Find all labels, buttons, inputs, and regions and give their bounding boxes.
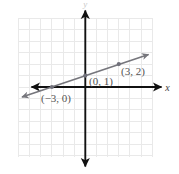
coordinate-plane-figure: (−3, 0) (0, 1) (3, 2) x y — [0, 0, 179, 174]
x-axis-label: x — [164, 82, 170, 93]
point-y-intercept — [83, 74, 87, 78]
point-label-x-intercept: (−3, 0) — [41, 92, 71, 105]
y-axis-label: y — [82, 0, 87, 9]
point-label-y-intercept: (0, 1) — [89, 75, 113, 88]
point-x-intercept — [50, 85, 54, 89]
point-label-third: (3, 2) — [121, 65, 145, 78]
graph-canvas: (−3, 0) (0, 1) (3, 2) x y — [0, 0, 179, 174]
